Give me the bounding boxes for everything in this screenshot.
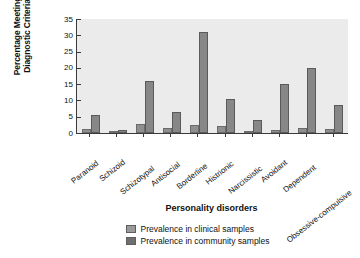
x-axis-title: Personality disorders bbox=[76, 203, 347, 213]
legend-swatch bbox=[126, 225, 136, 233]
chart-legend: Prevalence in clinical samplesPrevalence… bbox=[76, 224, 347, 246]
bar[interactable] bbox=[199, 32, 208, 133]
y-axis-tick-label: 25 bbox=[64, 47, 77, 56]
x-axis-label-wrap: Obsessive-compulsive bbox=[320, 137, 347, 195]
plot-area: 05101520253035 bbox=[76, 19, 348, 134]
bar-group bbox=[77, 19, 104, 133]
bar[interactable] bbox=[91, 115, 100, 133]
bar-group bbox=[158, 19, 185, 133]
bar[interactable] bbox=[136, 124, 145, 133]
bar-groups bbox=[77, 19, 348, 133]
y-axis-title: Percentage Meeting Diagnostic Criteria bbox=[6, 0, 38, 96]
bar-group bbox=[104, 19, 131, 133]
bar-group bbox=[131, 19, 158, 133]
bar[interactable] bbox=[145, 81, 154, 133]
x-axis-label-wrap: Dependent bbox=[293, 137, 320, 195]
bar[interactable] bbox=[217, 126, 226, 133]
x-axis-label-wrap: Paranoid bbox=[76, 137, 103, 195]
x-axis-label-wrap: Borderline bbox=[184, 137, 211, 195]
y-axis-title-line-2: Diagnostic Criteria bbox=[22, 0, 33, 73]
y-axis-tick-label: 20 bbox=[64, 63, 77, 72]
y-axis-tick-label: 10 bbox=[64, 95, 77, 104]
legend-label: Prevalence in community samples bbox=[141, 236, 270, 246]
bar[interactable] bbox=[307, 68, 316, 133]
bar-group bbox=[185, 19, 212, 133]
bar[interactable] bbox=[172, 112, 181, 133]
x-axis-tick-label: Obsessive-compulsive bbox=[348, 139, 360, 195]
y-axis-title-line-1: Percentage Meeting bbox=[12, 0, 23, 75]
y-axis-tick-label: 5 bbox=[69, 112, 77, 121]
y-axis-tick-label: 30 bbox=[64, 30, 77, 39]
x-axis-tick-labels: ParanoidSchizoidSchizotypalAntisocialBor… bbox=[76, 137, 347, 195]
bar-group bbox=[212, 19, 239, 133]
bar[interactable] bbox=[226, 99, 235, 133]
x-axis-label-wrap: Narcissistic bbox=[239, 137, 266, 195]
bar[interactable] bbox=[334, 105, 343, 133]
bar-group bbox=[294, 19, 321, 133]
bar[interactable] bbox=[280, 84, 289, 133]
bar[interactable] bbox=[253, 120, 262, 133]
legend-item[interactable]: Prevalence in clinical samples bbox=[126, 224, 298, 234]
legend-item[interactable]: Prevalence in community samples bbox=[126, 236, 298, 246]
bar-chart-figure: Percentage Meeting Diagnostic Criteria 0… bbox=[0, 0, 360, 258]
bar-group bbox=[267, 19, 294, 133]
bar-group bbox=[240, 19, 267, 133]
legend-label: Prevalence in clinical samples bbox=[141, 224, 254, 234]
y-axis-tick-label: 15 bbox=[64, 79, 77, 88]
legend-swatch bbox=[126, 237, 136, 245]
y-axis-tick-label: 35 bbox=[64, 14, 77, 23]
bar-group bbox=[321, 19, 348, 133]
bar[interactable] bbox=[190, 125, 199, 133]
